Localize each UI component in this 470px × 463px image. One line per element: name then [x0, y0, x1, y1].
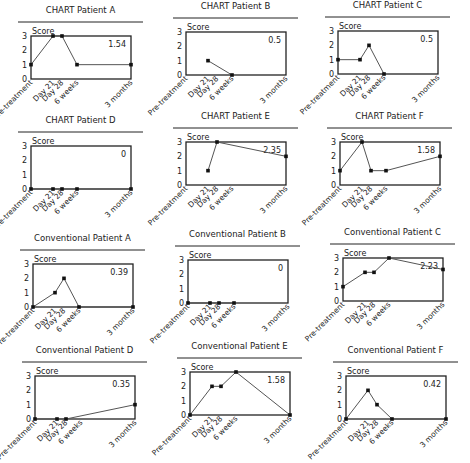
data-point-marker	[208, 301, 212, 305]
y-tick-label: 1	[22, 61, 27, 70]
data-point-marker	[366, 389, 370, 393]
y-tick-label: 2	[26, 386, 31, 395]
plot-frame	[188, 260, 288, 303]
line-plot: Score01232.35Pre-treatmentDay 21Day 286 …	[158, 106, 313, 221]
line-plot: Score01231.54Pre-treatmentDay 21Day 286 …	[3, 0, 158, 115]
panel-chart-patient-b: CHART Patient B Score01230.5Pre-treatmen…	[158, 0, 313, 111]
data-point-marker	[129, 187, 133, 191]
y-tick-label: 2	[24, 274, 29, 283]
y-tick-label: 2	[331, 152, 336, 161]
data-point-marker	[55, 417, 59, 421]
data-point-marker	[358, 58, 362, 62]
y-tick-label: 3	[177, 138, 182, 147]
data-point-marker	[51, 187, 55, 191]
line-plot: Score01230.35Pre-treatmentDay 21Day 286 …	[7, 340, 162, 455]
y-tick-label: 2	[177, 152, 182, 161]
mean-score-annotation: 1.58	[417, 146, 435, 155]
data-line	[33, 278, 133, 307]
data-point-marker	[206, 169, 210, 173]
panel-chart-patient-c: CHART Patient C Score01230.5Pre-treatmen…	[310, 0, 465, 110]
data-point-marker	[60, 187, 64, 191]
x-tick-label: 3 months	[415, 300, 446, 331]
y-tick-label: 1	[334, 283, 339, 292]
x-tick-label: 3 months	[103, 188, 134, 219]
y-tick-label: 1	[329, 56, 334, 65]
panel-chart-patient-d: CHART Patient D Score01230Pre-treatmentD…	[3, 110, 158, 225]
data-point-marker	[31, 305, 35, 309]
y-axis-label: Score	[189, 251, 211, 260]
data-point-marker	[390, 417, 394, 421]
x-tick-label: 3 months	[103, 78, 134, 109]
data-point-marker	[215, 140, 219, 144]
panel-conventional-patient-e: Conventional Patient E Score01231.58Pre-…	[162, 336, 317, 451]
data-point-marker	[336, 58, 340, 62]
y-tick-label: 3	[24, 260, 29, 269]
data-point-marker	[367, 44, 371, 48]
data-point-marker	[188, 413, 192, 417]
data-point-marker	[33, 417, 37, 421]
mean-score-annotation: 1.58	[267, 376, 285, 385]
x-tick-label: 3 months	[410, 73, 441, 104]
data-point-marker	[129, 63, 133, 67]
mean-score-annotation: 0	[278, 264, 283, 273]
panel-conventional-patient-d: Conventional Patient D Score01230.35Pre-…	[7, 340, 162, 455]
data-point-marker	[384, 169, 388, 173]
y-tick-label: 3	[26, 372, 31, 381]
data-point-marker	[77, 305, 81, 309]
data-point-marker	[51, 34, 55, 38]
panel-chart-patient-a: CHART Patient A Score01231.54Pre-treatme…	[3, 0, 158, 115]
data-point-marker	[372, 271, 376, 275]
data-point-marker	[369, 169, 373, 173]
data-point-marker	[288, 413, 292, 417]
line-plot: Score01231.58Pre-treatmentDay 21Day 286 …	[162, 336, 317, 451]
data-point-marker	[375, 403, 379, 407]
data-point-marker	[64, 417, 68, 421]
x-tick-label: 3 months	[260, 302, 291, 333]
y-axis-label: Score	[187, 23, 209, 32]
panel-conventional-patient-a: Conventional Patient A Score01230.39Pre-…	[5, 228, 160, 343]
x-tick-label: 3 months	[258, 74, 289, 105]
y-axis-label: Score	[36, 367, 58, 376]
x-tick-label: 3 months	[412, 184, 443, 215]
data-point-marker	[217, 301, 221, 305]
line-plot: Score01230.39Pre-treatmentDay 21Day 286 …	[5, 228, 160, 343]
panel-chart-patient-f: CHART Patient F Score01231.58Pre-treatme…	[312, 106, 467, 221]
data-point-marker	[344, 417, 348, 421]
mean-score-annotation: 0.5	[268, 36, 281, 45]
data-point-marker	[444, 417, 448, 421]
data-point-marker	[75, 63, 79, 67]
data-point-marker	[338, 169, 342, 173]
data-point-marker	[441, 268, 445, 272]
data-point-marker	[186, 301, 190, 305]
panel-conventional-patient-f: Conventional Patient F Score01230.42Pre-…	[318, 340, 470, 455]
x-tick-label: 3 months	[418, 418, 449, 449]
data-point-marker	[53, 291, 57, 295]
x-tick-label: Pre-treatment	[0, 188, 34, 231]
y-tick-label: 2	[337, 386, 342, 395]
data-line	[208, 61, 232, 75]
y-axis-label: Score	[341, 133, 363, 142]
data-point-marker	[60, 34, 64, 38]
y-tick-label: 2	[329, 41, 334, 50]
y-tick-label: 1	[179, 285, 184, 294]
y-axis-label: Score	[32, 27, 54, 36]
x-tick-label: 3 months	[105, 306, 136, 337]
panel-conventional-patient-b: Conventional Patient B Score01230Pre-tre…	[160, 224, 315, 339]
line-plot: Score01230.5Pre-treatmentDay 21Day 286 w…	[158, 0, 313, 111]
data-point-marker	[131, 305, 135, 309]
line-plot: Score01232.23Pre-treatmentDay 21Day 286 …	[315, 222, 470, 337]
line-plot: Score01230.42Pre-treatmentDay 21Day 286 …	[318, 340, 470, 455]
y-tick-label: 3	[337, 372, 342, 381]
y-tick-label: 3	[329, 27, 334, 36]
y-axis-label: Score	[347, 367, 369, 376]
y-tick-label: 1	[177, 57, 182, 66]
data-point-marker	[75, 187, 79, 191]
mean-score-annotation: 0.5	[420, 35, 433, 44]
line-plot: Score01231.58Pre-treatmentDay 21Day 286 …	[312, 106, 467, 221]
mean-score-annotation: 0.42	[423, 380, 441, 389]
y-tick-label: 2	[179, 270, 184, 279]
mean-score-annotation: 0.39	[110, 268, 128, 277]
y-tick-label: 2	[334, 268, 339, 277]
y-axis-label: Score	[191, 363, 213, 372]
data-point-marker	[133, 403, 137, 407]
